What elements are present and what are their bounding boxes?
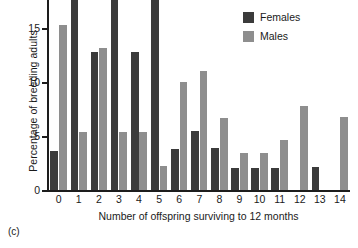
bar-males-1: [79, 132, 87, 190]
y-tick-label: 15: [28, 22, 40, 34]
legend-swatch-icon: [243, 12, 254, 23]
bar-males-4: [139, 132, 147, 190]
bar-group: [109, 0, 129, 190]
bar-group: [330, 0, 350, 190]
x-tick-label-2: 2: [96, 193, 102, 205]
bar-females-10: [251, 168, 259, 190]
bar-females-11: [271, 168, 279, 190]
y-tick-mark: [42, 28, 47, 30]
x-tick-label-3: 3: [116, 193, 122, 205]
bar-group: [189, 0, 209, 190]
bar-females-2: [91, 52, 99, 190]
bar-males-11: [280, 140, 288, 190]
bar-group: [209, 0, 229, 190]
y-tick-label: 10: [28, 76, 40, 88]
x-tick-label-5: 5: [156, 193, 162, 205]
x-tick-label-13: 13: [314, 193, 326, 205]
panel-caption: (c): [8, 226, 20, 237]
bar-males-8: [220, 118, 228, 190]
legend-item: Females: [243, 11, 300, 23]
y-axis-title: Percentage of breeding adults: [27, 6, 39, 196]
bar-group: [49, 0, 69, 190]
bar-males-7: [200, 71, 208, 190]
bar-males-2: [99, 48, 107, 191]
bar-groups: [49, 0, 350, 190]
bar-males-0: [59, 25, 67, 190]
bar-females-4: [131, 52, 139, 190]
bar-males-14: [340, 117, 348, 190]
x-tick-label-12: 12: [294, 193, 306, 205]
bar-females-9: [231, 168, 239, 190]
x-tick-label-8: 8: [216, 193, 222, 205]
bar-females-0: [50, 151, 58, 190]
bar-males-6: [180, 82, 188, 190]
x-tick-label-1: 1: [76, 193, 82, 205]
bar-males-5: [160, 166, 168, 190]
y-tick-label: 0: [34, 184, 40, 196]
figure-panel: Percentage of breeding adults 051015 012…: [0, 0, 358, 248]
x-axis-title: Number of offspring surviving to 12 mont…: [47, 210, 350, 222]
x-axis-line: [47, 190, 350, 192]
bar-group: [310, 0, 330, 190]
legend-label: Females: [260, 11, 300, 23]
bar-males-12: [300, 106, 308, 190]
y-tick-mark: [42, 190, 47, 192]
x-tick-label-11: 11: [274, 193, 285, 205]
legend-swatch-icon: [243, 31, 254, 42]
x-tick-label-4: 4: [136, 193, 142, 205]
x-tick-label-10: 10: [254, 193, 266, 205]
y-tick-mark: [42, 136, 47, 138]
x-tick-label-7: 7: [196, 193, 202, 205]
bar-males-10: [260, 153, 268, 190]
bar-females-8: [211, 148, 219, 190]
plot-area: 051015 01234567891011121314: [47, 0, 350, 190]
bar-males-3: [119, 132, 127, 190]
bar-group: [149, 0, 169, 190]
bar-group: [69, 0, 89, 190]
bar-group: [89, 0, 109, 190]
bar-females-6: [171, 149, 179, 190]
bar-females-5: [151, 0, 159, 190]
y-tick-mark: [42, 82, 47, 84]
x-tick-label-14: 14: [334, 193, 346, 205]
x-tick-label-0: 0: [56, 193, 62, 205]
bar-males-9: [240, 153, 248, 190]
chart-legend: FemalesMales: [243, 11, 300, 42]
bar-females-3: [111, 0, 119, 190]
y-tick-label: 5: [34, 130, 40, 142]
legend-label: Males: [260, 30, 288, 42]
bar-group: [129, 0, 149, 190]
bar-group: [169, 0, 189, 190]
bar-females-1: [71, 0, 79, 190]
x-tick-label-9: 9: [237, 193, 243, 205]
bar-females-13: [312, 167, 320, 190]
legend-item: Males: [243, 30, 300, 42]
bar-females-7: [191, 131, 199, 190]
x-tick-label-6: 6: [176, 193, 182, 205]
